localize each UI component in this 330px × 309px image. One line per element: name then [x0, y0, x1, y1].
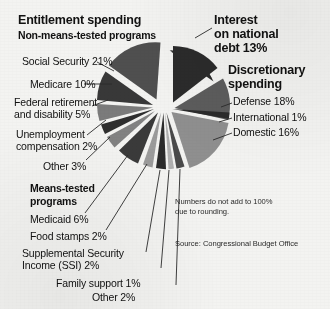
label-other-non-means-tested: Other 3%: [43, 160, 86, 173]
leader-line-family-support: [161, 170, 169, 268]
leader-line-food-stamps: [106, 164, 147, 230]
footnote-rounding-line2: due to rounding.: [175, 207, 229, 217]
label-ssi-line1: Supplemental Security: [22, 247, 124, 260]
label-defense: Defense 18%: [233, 95, 294, 108]
label-food-stamps: Food stamps 2%: [30, 230, 107, 243]
leader-line-interest: [195, 28, 212, 38]
pie-slices: [97, 42, 230, 169]
label-social-security: Social Security 21%: [22, 55, 113, 68]
leader-line-ssi: [146, 170, 160, 252]
label-federal-retirement-line1: Federal retirement: [14, 96, 97, 109]
infographic-pie-chart: Entitlement spending Non-means-tested pr…: [0, 0, 330, 309]
label-unemployment-line1: Unemployment: [16, 128, 85, 141]
heading-means-tested-line2: programs: [30, 195, 77, 208]
label-international: International 1%: [233, 111, 306, 124]
heading-entitlement-spending: Entitlement spending: [18, 13, 141, 28]
heading-interest-line3: debt 13%: [214, 41, 267, 56]
label-other-means-tested: Other 2%: [92, 291, 135, 304]
label-medicare: Medicare 10%: [30, 78, 95, 91]
label-family-support: Family support 1%: [56, 277, 140, 290]
label-ssi-line2: Income (SSI) 2%: [22, 259, 99, 272]
label-medicaid: Medicaid 6%: [30, 213, 88, 226]
pie-slice-supplemental-security-income: [156, 113, 166, 170]
label-domestic: Domestic 16%: [233, 126, 299, 139]
heading-discretionary-line1: Discretionary: [228, 63, 305, 78]
subheading-non-means-tested-programs: Non-means-tested programs: [18, 29, 156, 42]
footnote-source: Source: Congressional Budget Office: [175, 239, 298, 249]
heading-interest-line1: Interest: [214, 13, 258, 28]
heading-interest-line2: on national: [214, 27, 278, 42]
leader-line-other-means-tested: [176, 169, 180, 285]
label-federal-retirement-line2: and disability 5%: [14, 108, 90, 121]
heading-discretionary-line2: spending: [228, 77, 282, 92]
heading-means-tested-line1: Means-tested: [30, 182, 95, 195]
label-unemployment-line2: compensation 2%: [16, 140, 97, 153]
footnote-rounding-line1: Numbers do not add to 100%: [175, 197, 272, 207]
